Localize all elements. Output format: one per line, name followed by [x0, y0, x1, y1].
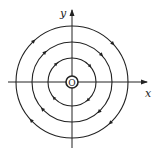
x-axis-label: x [145, 87, 152, 100]
y-axis-label: y [59, 7, 67, 20]
origin-label: O [68, 78, 75, 88]
phase-portrait-diagram: O x y [0, 0, 160, 154]
